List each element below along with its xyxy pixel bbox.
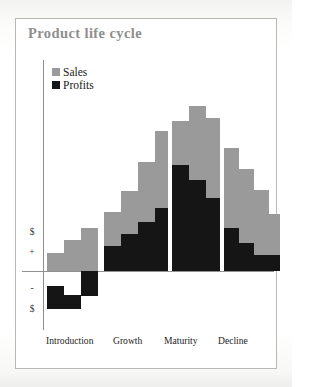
legend-item-sales: Sales [52,66,94,79]
bar-profits-3 [104,246,121,271]
x-tick-introduction: Introduction [46,335,93,346]
x-tick-decline: Decline [218,335,248,346]
legend-item-profits: Profits [52,79,94,92]
legend-label-sales: Sales [63,66,87,79]
bar-profits-7 [172,165,189,271]
bar-profits-6 [155,208,168,271]
bar-profits-2 [81,271,98,296]
x-tick-growth: Growth [113,335,142,346]
x-tick-maturity: Maturity [164,335,198,346]
bar-profits-9 [206,198,220,271]
legend-label-profits: Profits [63,79,94,92]
bar-sales-2 [81,228,98,271]
bar-profits-11 [239,243,254,271]
bar-profits-0 [47,286,64,309]
bar-sales-0 [47,253,64,271]
y-tick-dollar-positive: $ [25,227,39,237]
y-tick-minus: - [25,283,39,293]
bar-profits-10 [224,228,239,271]
y-axis-line [43,60,44,330]
bar-profits-8 [189,180,206,271]
bar-profits-4 [121,234,138,271]
bar-profits-1 [64,295,81,309]
zero-baseline [22,271,274,272]
page-title: Product life cycle [28,25,142,42]
y-tick-plus: + [25,247,39,257]
sales-swatch-icon [52,68,60,76]
chart-legend: Sales Profits [52,66,94,92]
y-tick-dollar-negative: $ [25,304,39,314]
profits-swatch-icon [52,81,60,89]
bar-sales-1 [64,240,81,271]
bar-profits-13 [269,255,280,271]
bar-profits-12 [254,255,269,271]
bar-profits-5 [138,222,155,271]
